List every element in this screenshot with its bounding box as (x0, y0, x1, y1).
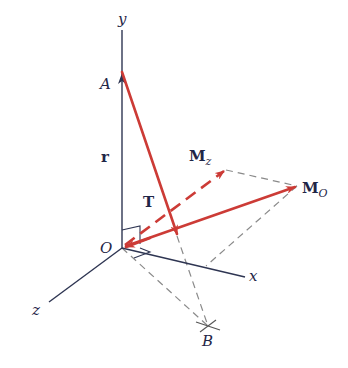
label-point-A: A (98, 75, 111, 93)
label-Mz-sub: z (205, 155, 212, 168)
label-Mz: Mz (189, 147, 212, 168)
axes (49, 30, 245, 302)
label-x-axis: x (249, 267, 258, 285)
labels: y x z O A B r T Mz MO (31, 10, 328, 350)
moment-diagram: y x z O A B r T Mz MO (0, 0, 348, 368)
b-tick-2 (200, 320, 216, 332)
line-T-to-B (177, 236, 208, 326)
label-point-B: B (201, 332, 213, 350)
label-T: T (143, 193, 155, 211)
label-Mo: MO (302, 179, 328, 200)
line-Mz-to-Mo (226, 170, 297, 186)
label-y-axis: y (117, 10, 127, 28)
label-origin: O (100, 239, 112, 257)
line-Mo-to-x-axis (206, 186, 297, 266)
label-Mo-sub: O (319, 187, 328, 200)
label-Mo-main: M (302, 179, 319, 197)
label-z-axis: z (31, 301, 40, 319)
x-axis (122, 248, 245, 277)
label-Mz-main: M (189, 147, 206, 165)
label-r: r (101, 148, 110, 166)
